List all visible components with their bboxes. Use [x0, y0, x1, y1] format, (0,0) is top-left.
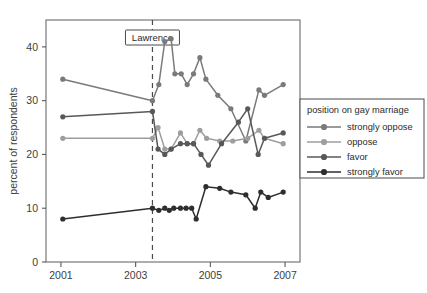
data-point	[256, 128, 261, 133]
data-point	[217, 186, 222, 191]
data-point	[150, 98, 155, 103]
x-tick-label: 2003	[124, 269, 148, 281]
data-point	[245, 136, 250, 141]
data-point	[228, 106, 233, 111]
data-point	[162, 206, 167, 211]
data-point	[185, 141, 190, 146]
data-point	[162, 152, 167, 157]
data-point	[262, 136, 267, 141]
legend-item-label: oppose	[347, 137, 378, 147]
legend-marker	[321, 124, 327, 130]
data-point	[253, 206, 258, 211]
data-point	[178, 141, 183, 146]
data-point	[169, 36, 174, 41]
data-point	[60, 114, 65, 119]
data-point	[171, 206, 176, 211]
data-point	[162, 146, 167, 151]
y-tick-label: 30	[26, 94, 38, 106]
data-point	[189, 206, 194, 211]
data-point	[178, 130, 183, 135]
data-point	[256, 87, 261, 92]
data-point	[150, 206, 155, 211]
data-point	[258, 189, 263, 194]
data-point	[172, 71, 177, 76]
chart-container: 010203040 2001200320052007 percent of re…	[0, 0, 427, 293]
y-axis-title: percent of respondents	[7, 87, 19, 194]
data-point	[179, 71, 184, 76]
y-tick-label: 0	[32, 256, 38, 268]
data-point	[156, 208, 161, 213]
legend-item-label: strongly favor	[347, 167, 403, 177]
y-tick-label: 20	[26, 148, 38, 160]
x-tick-label: 2007	[273, 269, 297, 281]
data-point	[60, 216, 65, 221]
data-point	[183, 206, 188, 211]
data-point	[167, 208, 172, 213]
chart-legend: position on gay marriagestrongly opposeo…	[300, 99, 424, 178]
data-point	[281, 82, 286, 87]
legend-marker	[321, 169, 327, 175]
legend-marker	[321, 154, 327, 160]
line-chart: 010203040 2001200320052007 percent of re…	[0, 0, 427, 293]
data-point	[194, 216, 199, 221]
data-point	[150, 136, 155, 141]
data-point	[191, 71, 196, 76]
data-point	[245, 106, 250, 111]
data-point	[60, 77, 65, 82]
x-tick-label: 2005	[199, 269, 223, 281]
data-point	[203, 77, 208, 82]
data-point	[219, 141, 224, 146]
legend-item-label: strongly oppose	[347, 122, 413, 132]
x-tick-label: 2001	[49, 269, 73, 281]
y-tick-label: 10	[26, 202, 38, 214]
data-point	[156, 82, 161, 87]
data-point	[185, 82, 190, 87]
y-tick-label: 40	[26, 41, 38, 53]
legend-title: position on gay marriage	[307, 105, 409, 115]
data-point	[191, 141, 196, 146]
data-point	[215, 93, 220, 98]
data-point	[162, 39, 167, 44]
data-point	[228, 189, 233, 194]
data-point	[60, 136, 65, 141]
data-point	[203, 184, 208, 189]
data-point	[266, 195, 271, 200]
data-point	[197, 128, 202, 133]
data-point	[197, 55, 202, 60]
data-point	[206, 163, 211, 168]
data-point	[281, 189, 286, 194]
data-point	[204, 136, 209, 141]
data-point	[243, 192, 248, 197]
data-point	[155, 146, 160, 151]
data-point	[198, 152, 203, 157]
legend-marker	[321, 139, 327, 145]
data-point	[256, 152, 261, 157]
data-point	[281, 141, 286, 146]
data-point	[281, 130, 286, 135]
data-point	[155, 125, 160, 130]
data-point	[178, 206, 183, 211]
data-point	[230, 138, 235, 143]
data-point	[262, 93, 267, 98]
data-point	[236, 120, 241, 125]
legend-item-label: favor	[347, 152, 368, 162]
data-point	[150, 109, 155, 114]
data-point	[169, 146, 174, 151]
